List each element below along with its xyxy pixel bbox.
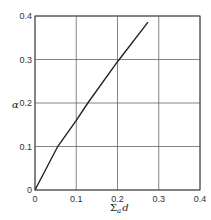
- grid-lines: [35, 16, 200, 190]
- x-tick-label: 0.4: [194, 194, 207, 204]
- chart: 00.10.20.30.4 00.10.20.30.4 α Σad: [0, 0, 211, 220]
- x-tick-label: 0: [32, 194, 37, 204]
- y-axis-label: α: [12, 99, 19, 110]
- x-tick-label: 0.3: [152, 194, 165, 204]
- y-tick-label: 0.4: [19, 11, 32, 21]
- y-tick-label: 0.1: [19, 142, 32, 152]
- data-curve: [35, 22, 148, 190]
- y-axis-ticks: 00.10.20.30.4: [19, 11, 32, 195]
- x-tick-label: 0.1: [70, 194, 83, 204]
- x-axis-ticks: 00.10.20.30.4: [32, 194, 206, 204]
- y-tick-label: 0.3: [19, 55, 32, 65]
- y-tick-label: 0.2: [19, 98, 32, 108]
- y-tick-label: 0: [27, 185, 32, 195]
